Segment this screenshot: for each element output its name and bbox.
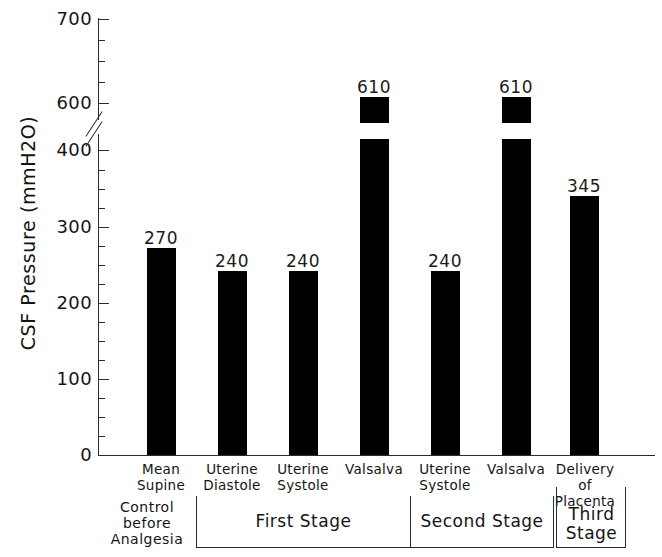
cat-line-1: Uterine bbox=[406, 461, 484, 477]
y-minor-tick bbox=[99, 341, 105, 342]
cat-line-2: Systole bbox=[264, 477, 342, 493]
x-axis-line bbox=[98, 455, 655, 456]
bar-valsalva-first-lower bbox=[360, 139, 389, 455]
cat-line-2: Systole bbox=[406, 477, 484, 493]
cat-line-1: Delivery bbox=[546, 461, 624, 477]
bar-value-uterine-systole-second: 240 bbox=[415, 251, 475, 271]
bar-value-valsalva-first: 610 bbox=[344, 77, 404, 97]
group-line-2: Stage bbox=[557, 524, 626, 543]
y-tick-label-400: 400 bbox=[4, 139, 92, 160]
bar-delivery-of-placenta bbox=[570, 196, 599, 455]
bar-valsalva-first-upper bbox=[360, 97, 389, 123]
y-tick-label-200: 200 bbox=[4, 292, 92, 313]
bar-chart: CSF Pressure (mmH2O) 700 600 400 300 200… bbox=[0, 0, 662, 557]
bar-value-uterine-diastole: 240 bbox=[202, 251, 262, 271]
group-line-1: Second Stage bbox=[410, 512, 554, 531]
y-minor-tick bbox=[99, 246, 105, 247]
bar-valsalva-second-lower bbox=[502, 139, 531, 455]
y-minor-tick bbox=[99, 170, 105, 171]
cat-line-1: Valsalva bbox=[477, 461, 555, 477]
group-line-1: Control bbox=[100, 499, 194, 515]
y-minor-tick bbox=[99, 208, 105, 209]
cat-line-1: Uterine bbox=[264, 461, 342, 477]
cat-line-2: Diastole bbox=[193, 477, 271, 493]
y-tick-label-0: 0 bbox=[4, 444, 92, 465]
y-minor-tick bbox=[99, 322, 105, 323]
y-tick-600 bbox=[99, 103, 109, 104]
group-line-3: Analgesia bbox=[100, 531, 194, 547]
y-tick-100 bbox=[99, 379, 109, 380]
y-minor-tick bbox=[99, 436, 105, 437]
y-tick-label-300: 300 bbox=[4, 216, 92, 237]
y-minor-tick bbox=[99, 417, 105, 418]
group-line-1: Third bbox=[557, 505, 626, 524]
bar-value-delivery-of-placenta: 345 bbox=[554, 176, 614, 196]
y-tick-400 bbox=[99, 150, 109, 151]
y-tick-0 bbox=[99, 455, 109, 456]
cat-line-1: Uterine bbox=[193, 461, 271, 477]
y-axis-break-icon bbox=[84, 112, 118, 144]
bar-value-mean-supine: 270 bbox=[131, 228, 191, 248]
group-label-first-stage: First Stage bbox=[200, 512, 407, 531]
y-tick-300 bbox=[99, 227, 109, 228]
x-category-label-uterine-diastole: Uterine Diastole bbox=[193, 461, 271, 493]
group-label-third-stage: Third Stage bbox=[557, 505, 626, 543]
cat-line-1: Mean bbox=[122, 461, 200, 477]
y-tick-label-100: 100 bbox=[4, 368, 92, 389]
bar-value-valsalva-second: 610 bbox=[486, 77, 546, 97]
bar-value-uterine-systole-first: 240 bbox=[273, 251, 333, 271]
bar-valsalva-second-upper bbox=[502, 97, 531, 123]
y-tick-label-700: 700 bbox=[4, 8, 92, 29]
y-tick-label-600: 600 bbox=[4, 92, 92, 113]
bar-uterine-systole-second bbox=[431, 271, 460, 455]
y-minor-tick bbox=[99, 82, 105, 83]
cat-line-2: of bbox=[546, 477, 624, 493]
x-category-label-valsalva-second: Valsalva bbox=[477, 461, 555, 477]
x-category-label-valsalva-first: Valsalva bbox=[335, 461, 413, 477]
bar-uterine-diastole bbox=[218, 271, 247, 455]
group-label-control-before-analgesia: Control before Analgesia bbox=[100, 499, 194, 547]
y-tick-200 bbox=[99, 303, 109, 304]
x-category-label-delivery-of-placenta: Delivery of Placenta bbox=[546, 461, 624, 509]
y-minor-tick bbox=[99, 265, 105, 266]
y-minor-tick bbox=[99, 189, 105, 190]
bar-mean-supine bbox=[147, 248, 176, 455]
x-category-label-uterine-systole-second: Uterine Systole bbox=[406, 461, 484, 493]
bar-uterine-systole-first bbox=[289, 271, 318, 455]
y-tick-700 bbox=[99, 19, 109, 20]
y-minor-tick bbox=[99, 398, 105, 399]
group-line-1: First Stage bbox=[200, 512, 407, 531]
y-minor-tick bbox=[99, 284, 105, 285]
group-line-2: before bbox=[100, 515, 194, 531]
cat-line-2: Supine bbox=[122, 477, 200, 493]
x-category-label-mean-supine: Mean Supine bbox=[122, 461, 200, 493]
group-label-second-stage: Second Stage bbox=[410, 512, 554, 531]
y-minor-tick bbox=[99, 40, 105, 41]
y-minor-tick bbox=[99, 61, 105, 62]
x-category-label-uterine-systole-first: Uterine Systole bbox=[264, 461, 342, 493]
y-axis-line bbox=[98, 18, 99, 456]
cat-line-1: Valsalva bbox=[335, 461, 413, 477]
y-minor-tick bbox=[99, 360, 105, 361]
